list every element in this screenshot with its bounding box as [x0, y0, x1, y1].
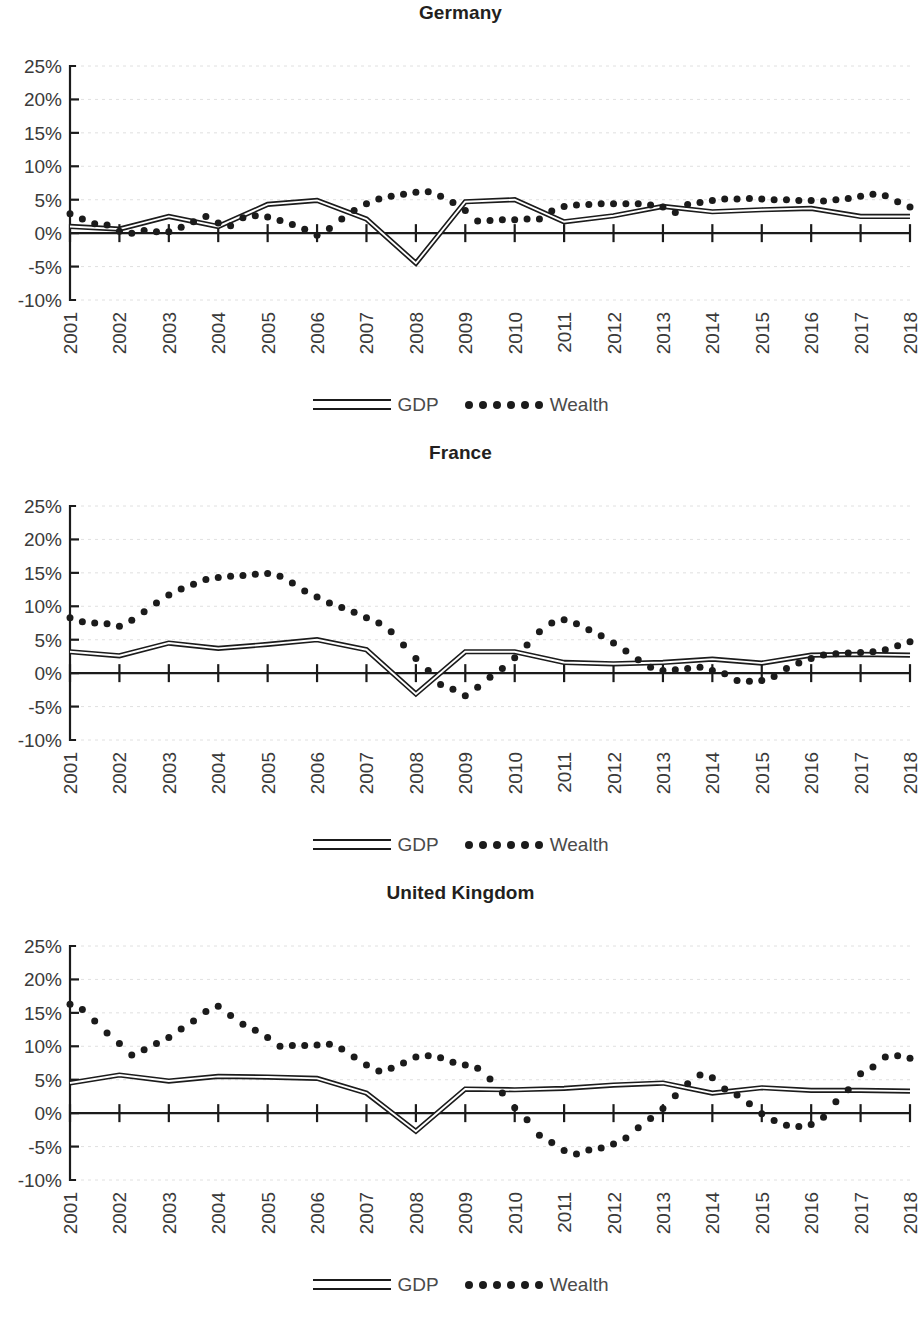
y-tick-label: -5% — [28, 697, 62, 718]
legend-label-gdp: GDP — [398, 835, 439, 854]
wealth-point — [585, 1146, 592, 1153]
series-wealth — [67, 570, 914, 699]
y-tick-label: 0% — [35, 663, 63, 684]
wealth-point — [697, 664, 704, 671]
wealth-point — [771, 673, 778, 680]
wealth-point — [561, 203, 568, 210]
x-tick-label: 2016 — [801, 1192, 822, 1234]
wealth-point — [783, 665, 790, 672]
wealth-point — [388, 193, 395, 200]
x-tick-label: 2010 — [505, 1192, 526, 1234]
wealth-point — [116, 228, 123, 235]
wealth-point — [610, 200, 617, 207]
wealth-point — [524, 642, 531, 649]
wealth-point — [277, 1043, 284, 1050]
wealth-point — [548, 208, 555, 215]
x-tick-label: 2014 — [702, 312, 723, 355]
legend-item-wealth[interactable]: Wealth — [465, 835, 609, 854]
wealth-point — [808, 655, 815, 662]
wealth-point — [536, 216, 543, 223]
y-tick-label: 5% — [35, 1070, 63, 1091]
wealth-point — [746, 678, 753, 685]
wealth-point — [832, 1098, 839, 1105]
x-tick-label: 2014 — [702, 1192, 723, 1235]
wealth-point — [449, 686, 456, 693]
wealth-point — [536, 628, 543, 635]
y-tick-label: 5% — [35, 190, 63, 211]
wealth-point — [264, 1034, 271, 1041]
legend-item-gdp[interactable]: GDP — [313, 1275, 439, 1294]
wealth-point — [437, 681, 444, 688]
legend-item-gdp[interactable]: GDP — [313, 835, 439, 854]
wealth-point — [67, 1001, 74, 1008]
wealth-point — [487, 674, 494, 681]
wealth-point — [301, 226, 308, 233]
x-tick-label: 2016 — [801, 752, 822, 794]
wealth-point — [326, 225, 333, 232]
y-tick-label: 25% — [24, 56, 62, 77]
wealth-point — [659, 667, 666, 674]
wealth-point — [573, 202, 580, 209]
legend-label-gdp: GDP — [398, 1275, 439, 1294]
wealth-point — [104, 1029, 111, 1036]
x-tick-label: 2013 — [653, 312, 674, 354]
wealth-point — [363, 614, 370, 621]
wealth-point — [239, 214, 246, 221]
plot-area: -10%-5%0%5%10%15%20%25%20012002200320042… — [0, 440, 921, 880]
wealth-point — [882, 1053, 889, 1060]
wealth-point — [190, 581, 197, 588]
wealth-point — [202, 576, 209, 583]
x-tick-label: 2001 — [60, 1192, 81, 1234]
wealth-point — [153, 599, 160, 606]
legend-item-wealth[interactable]: Wealth — [465, 1275, 609, 1294]
wealth-point — [141, 608, 148, 615]
x-tick-label: 2018 — [900, 752, 921, 794]
wealth-point — [721, 1086, 728, 1093]
gridlines — [74, 506, 910, 740]
x-tick-label: 2012 — [604, 1192, 625, 1234]
x-tick-label: 2015 — [752, 1192, 773, 1234]
x-tick-label: 2007 — [356, 1192, 377, 1234]
y-tick-label: 0% — [35, 1103, 63, 1124]
wealth-point — [79, 216, 86, 223]
wealth-point — [227, 573, 234, 580]
legend-label-wealth: Wealth — [550, 1275, 609, 1294]
wealth-point — [894, 1052, 901, 1059]
x-tick-label: 2013 — [653, 752, 674, 794]
wealth-point — [449, 199, 456, 206]
wealth-point — [165, 591, 172, 598]
y-axis: -10%-5%0%5%10%15%20%25% — [18, 56, 79, 311]
wealth-point — [820, 652, 827, 659]
y-axis-spine — [70, 66, 76, 300]
wealth-point — [832, 196, 839, 203]
wealth-point — [91, 1017, 98, 1024]
wealth-point — [573, 1150, 580, 1157]
legend-label-wealth: Wealth — [550, 835, 609, 854]
x-tick-label: 2008 — [406, 752, 427, 794]
x-tick-label: 2008 — [406, 1192, 427, 1234]
y-tick-label: 15% — [24, 123, 62, 144]
legend-item-gdp[interactable]: GDP — [313, 395, 439, 414]
x-axis: 2001200220032004200520062007200820092010… — [60, 664, 921, 794]
wealth-point — [832, 650, 839, 657]
x-tick-label: 2002 — [109, 752, 130, 794]
y-tick-label: 20% — [24, 969, 62, 990]
legend-item-wealth[interactable]: Wealth — [465, 395, 609, 414]
y-tick-label: 15% — [24, 1003, 62, 1024]
wealth-point — [771, 1117, 778, 1124]
wealth-point — [635, 1124, 642, 1131]
wealth-point — [351, 207, 358, 214]
legend-label-gdp: GDP — [398, 395, 439, 414]
wealth-point — [808, 1121, 815, 1128]
x-tick-label: 2004 — [208, 312, 229, 355]
x-tick-label: 2017 — [851, 752, 872, 794]
wealth-point — [758, 1110, 765, 1117]
y-axis-spine — [70, 946, 76, 1180]
wealth-point — [795, 1123, 802, 1130]
wealth-point — [869, 191, 876, 198]
wealth-point — [227, 1012, 234, 1019]
wealth-point — [610, 640, 617, 647]
x-tick-label: 2009 — [455, 1192, 476, 1234]
plot-area: -10%-5%0%5%10%15%20%25%20012002200320042… — [0, 880, 921, 1320]
wealth-point — [338, 216, 345, 223]
